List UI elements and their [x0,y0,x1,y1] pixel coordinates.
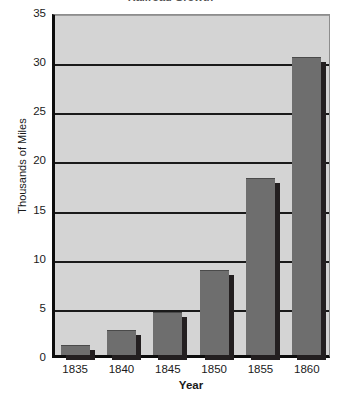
bar[interactable] [107,330,136,355]
bar[interactable] [61,345,90,355]
x-axis-tick-label: 1835 [52,361,98,377]
bar[interactable] [153,312,182,355]
x-axis-tick-labels: 183518401845185018551860 [52,361,330,379]
y-axis-tick-label: 5 [16,303,46,315]
x-axis-tick-label: 1860 [284,361,330,377]
bar-slot [200,15,229,355]
chart-title: Railroad Growth [0,0,341,3]
plot-area [52,14,330,358]
y-axis-tick-label: 35 [16,8,46,20]
x-axis-tick-label: 1840 [98,361,144,377]
bar[interactable] [246,178,275,355]
bar[interactable] [292,57,321,355]
bar-series [55,15,329,355]
y-axis-tick-label: 20 [16,156,46,168]
y-axis-tick-label: 10 [16,254,46,266]
bar-slot [107,15,136,355]
y-axis-tick-label: 15 [16,205,46,217]
y-axis-tick-label: 25 [16,107,46,119]
bar-slot [292,15,321,355]
x-axis-tick-label: 1845 [145,361,191,377]
y-axis-tick-labels: 35302520151050 [16,0,46,402]
bar-chart-figure: Railroad Growth Thousands of Miles 35302… [0,0,341,402]
x-axis-title: Year [52,379,330,391]
y-axis-tick-label: 30 [16,57,46,69]
bar-slot [153,15,182,355]
bar[interactable] [200,270,229,356]
x-axis-tick-label: 1855 [237,361,283,377]
bar-slot [246,15,275,355]
y-axis-tick-label: 0 [16,352,46,364]
bar-slot [61,15,90,355]
x-axis-tick-label: 1850 [191,361,237,377]
